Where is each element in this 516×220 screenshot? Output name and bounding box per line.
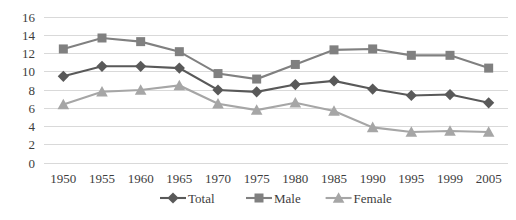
data-point-male <box>98 33 107 42</box>
data-point-male <box>368 44 377 53</box>
y-axis-tick-label: 2 <box>29 137 36 152</box>
data-point-female <box>290 97 302 108</box>
data-point-female <box>212 98 224 109</box>
data-point-total <box>406 90 417 101</box>
x-axis-tick-label: 1965 <box>166 171 192 186</box>
y-axis-tick-label: 12 <box>22 46 35 61</box>
line-chart: 0246810121416 19501955196019651970197519… <box>0 0 516 220</box>
data-point-total <box>96 61 107 72</box>
data-point-total <box>58 71 69 82</box>
y-axis-tick-label: 6 <box>29 101 36 116</box>
data-point-total <box>251 86 262 97</box>
x-axis-tick-label: 1975 <box>244 171 270 186</box>
x-axis-tick-label: 1960 <box>128 171 154 186</box>
data-point-total <box>212 84 223 95</box>
data-point-total <box>367 83 378 94</box>
data-point-male <box>175 47 184 56</box>
x-axis-tick-label: 1955 <box>89 171 115 186</box>
data-point-male <box>214 69 223 78</box>
data-point-male <box>407 51 416 60</box>
y-axis-tick-label: 4 <box>29 119 36 134</box>
data-point-total <box>328 75 339 86</box>
y-axis-tick-label: 8 <box>29 83 36 98</box>
legend-label-male: Male <box>274 191 301 206</box>
data-point-total <box>444 89 455 100</box>
legend-label-female: Female <box>354 191 392 206</box>
y-axis-tick-labels: 0246810121416 <box>22 10 36 171</box>
x-axis-tick-label: 1970 <box>205 171 231 186</box>
x-axis-tick-label: 1999 <box>437 171 463 186</box>
data-point-male <box>252 75 261 84</box>
y-axis-tick-label: 10 <box>22 64 35 79</box>
data-point-male <box>59 44 68 53</box>
legend-label-total: Total <box>188 191 215 206</box>
plot-area: 0246810121416 19501955196019651970197519… <box>0 0 516 220</box>
data-point-male <box>484 64 493 73</box>
data-point-male <box>446 51 455 60</box>
legend-marker-male <box>255 194 264 203</box>
data-point-male <box>330 45 339 54</box>
y-axis-tick-label: 14 <box>22 28 36 43</box>
x-axis-tick-label: 1990 <box>360 171 386 186</box>
data-point-male <box>291 60 300 69</box>
series-line-male <box>63 38 488 79</box>
y-axis-tick-label: 16 <box>22 10 36 25</box>
legend-marker-total <box>167 192 178 203</box>
chart-canvas: 0246810121416 19501955196019651970197519… <box>0 0 516 220</box>
x-axis-tick-label: 1950 <box>50 171 76 186</box>
x-axis-tick-label: 1995 <box>398 171 424 186</box>
x-axis-tick-label: 1985 <box>321 171 347 186</box>
chart-legend: TotalMaleFemale <box>160 191 392 206</box>
data-point-total <box>290 79 301 90</box>
x-axis-tick-label: 2005 <box>476 171 502 186</box>
y-axis-tick-label: 0 <box>29 156 36 171</box>
series-markers-group <box>58 33 495 136</box>
x-axis-tick-label: 1980 <box>282 171 308 186</box>
series-lines-group <box>63 38 488 132</box>
x-axis-tick-labels: 1950195519601965197019751980198519901995… <box>50 171 501 186</box>
data-point-total <box>135 61 146 72</box>
data-point-total <box>483 97 494 108</box>
data-point-male <box>136 37 145 46</box>
